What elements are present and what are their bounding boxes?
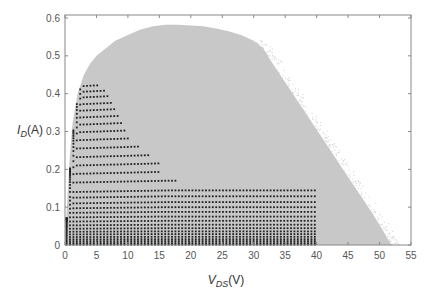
x-tick-label: 20 — [185, 250, 197, 261]
x-tick-label: 40 — [311, 250, 323, 261]
x-tick-label: 35 — [280, 250, 292, 261]
x-tick-label: 0 — [62, 250, 68, 261]
plot-area — [65, 25, 399, 246]
x-tick-label: 10 — [122, 250, 134, 261]
y-axis-label: ID(A) — [17, 123, 43, 139]
y-tick-label: 0.2 — [46, 164, 60, 175]
iv-scatter-chart: 051015202530354045505500.10.20.30.40.50.… — [0, 0, 433, 300]
x-tick-label: 25 — [217, 250, 229, 261]
y-tick-label: 0.4 — [46, 88, 60, 99]
x-tick-label: 55 — [405, 250, 417, 261]
y-tick-label: 0.3 — [46, 126, 60, 137]
y-tick-label: 0.5 — [46, 50, 60, 61]
y-tick-label: 0.6 — [46, 13, 60, 24]
x-tick-label: 30 — [248, 250, 260, 261]
y-tick-label: 0 — [54, 240, 60, 251]
x-tick-label: 15 — [154, 250, 166, 261]
x-axis-label: VDS(V) — [208, 273, 245, 289]
x-tick-label: 50 — [374, 250, 386, 261]
y-tick-label: 0.1 — [46, 202, 60, 213]
x-tick-label: 5 — [94, 250, 100, 261]
x-tick-label: 45 — [343, 250, 355, 261]
